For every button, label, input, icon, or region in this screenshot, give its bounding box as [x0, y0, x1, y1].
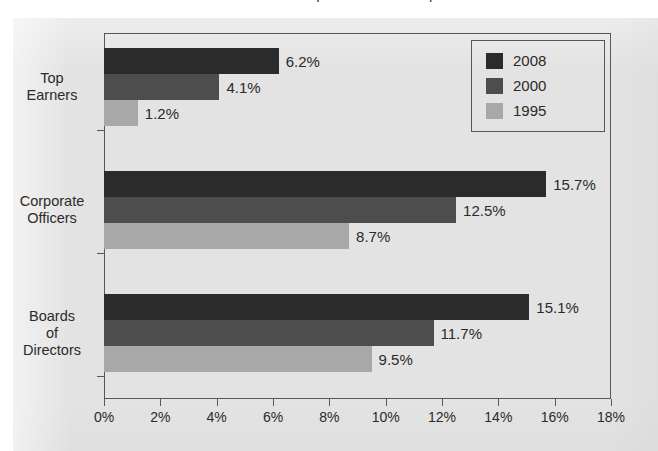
x-axis-tick — [273, 399, 274, 406]
x-axis-tick-label: 14% — [484, 409, 512, 425]
legend-swatch-icon — [486, 78, 503, 94]
bar-row: 15.7% — [104, 171, 611, 197]
legend-swatch-icon — [486, 103, 503, 119]
bar-1995-corporate-officers[interactable] — [104, 223, 349, 249]
category-label-corporate-officers: CorporateOfficers — [4, 193, 100, 227]
bar-value-label: 12.5% — [456, 202, 506, 219]
legend-item-2000[interactable]: 2000 — [486, 73, 604, 98]
category-label-line: of — [4, 325, 100, 342]
legend-label: 2008 — [513, 52, 546, 69]
bar-group: 15.1%11.7%9.5% — [104, 294, 611, 372]
bar-value-label: 6.2% — [279, 53, 320, 70]
bar-row: 8.7% — [104, 223, 611, 249]
x-axis-tick — [498, 399, 499, 406]
x-axis-tick-label: 10% — [372, 409, 400, 425]
y-axis-category-labels: TopEarnersCorporateOfficersBoardsofDirec… — [0, 33, 100, 399]
legend-label: 2000 — [513, 77, 546, 94]
x-axis-tick-label: 8% — [319, 409, 339, 425]
category-label-line: Earners — [4, 87, 100, 104]
bar-group: 15.7%12.5%8.7% — [104, 171, 611, 249]
category-label-line: Corporate — [4, 193, 100, 210]
x-axis-tick — [555, 399, 556, 406]
x-axis-tick — [104, 399, 105, 406]
chart-legend: 200820001995 — [471, 40, 605, 132]
bar-2008-corporate-officers[interactable] — [104, 171, 546, 197]
bar-value-label: 1.2% — [138, 105, 179, 122]
category-label-boards-of-directors: BoardsofDirectors — [4, 308, 100, 359]
x-axis-tick-label: 0% — [94, 409, 114, 425]
category-label-top-earners: TopEarners — [4, 70, 100, 104]
x-axis-tick-label: 6% — [263, 409, 283, 425]
bar-2000-corporate-officers[interactable] — [104, 197, 456, 223]
bar-2000-boards-of-directors[interactable] — [104, 320, 434, 346]
legend-label: 1995 — [513, 102, 546, 119]
bar-row: 9.5% — [104, 346, 611, 372]
x-axis-tick — [217, 399, 218, 406]
bar-2008-top-earners[interactable] — [104, 48, 279, 74]
x-axis-tick-label: 12% — [428, 409, 456, 425]
x-axis-tick — [386, 399, 387, 406]
bar-value-label: 9.5% — [372, 351, 413, 368]
x-axis-tick-label: 4% — [207, 409, 227, 425]
legend-swatch-icon — [486, 53, 503, 69]
bar-row: 15.1% — [104, 294, 611, 320]
y-axis-tick — [97, 376, 104, 377]
bar-2000-top-earners[interactable] — [104, 74, 219, 100]
bar-value-label: 15.7% — [546, 176, 596, 193]
x-axis-tick-label: 2% — [150, 409, 170, 425]
bar-1995-boards-of-directors[interactable] — [104, 346, 372, 372]
x-axis-tick-label: 16% — [541, 409, 569, 425]
legend-item-2008[interactable]: 2008 — [486, 48, 604, 73]
x-axis-tick — [160, 399, 161, 406]
category-label-line: Boards — [4, 308, 100, 325]
bar-value-label: 4.1% — [219, 79, 260, 96]
y-axis-tick — [97, 130, 104, 131]
bar-value-label: 15.1% — [529, 299, 579, 316]
category-label-line: Top — [4, 70, 100, 87]
y-axis-tick — [97, 253, 104, 254]
bar-value-label: 11.7% — [434, 325, 482, 342]
category-label-line: Directors — [4, 342, 100, 359]
bar-row: 11.7% — [104, 320, 611, 346]
x-axis-tick — [611, 399, 612, 406]
category-label-line: Officers — [4, 210, 100, 227]
x-axis-tick — [442, 399, 443, 406]
chart-figure: Women in Corporate Leadership TopEarners… — [0, 0, 658, 451]
bar-1995-top-earners[interactable] — [104, 100, 138, 126]
chart-title-cropped: Women in Corporate Leadership — [0, 0, 658, 10]
bar-row: 12.5% — [104, 197, 611, 223]
x-axis-tick-label: 18% — [597, 409, 625, 425]
bar-2008-boards-of-directors[interactable] — [104, 294, 529, 320]
x-axis-tick — [329, 399, 330, 406]
bar-value-label: 8.7% — [349, 228, 390, 245]
legend-item-1995[interactable]: 1995 — [486, 98, 604, 123]
